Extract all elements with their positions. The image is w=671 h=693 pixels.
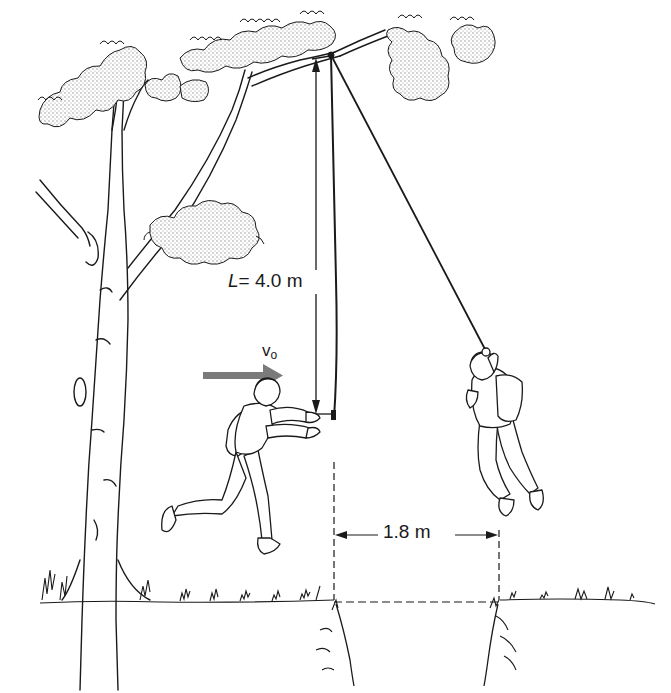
illustration (0, 0, 671, 693)
ropes (328, 52, 487, 420)
rope-hanging (331, 55, 337, 418)
rope-length-label: L= 4.0 m (227, 271, 303, 290)
horizontal-distance-label: 1.8 m (381, 522, 433, 541)
length-dimension-arrow (310, 56, 334, 414)
swinging-person (466, 348, 543, 516)
length-value: = 4.0 m (239, 270, 303, 291)
velocity-symbol: v (262, 341, 271, 360)
tree (36, 30, 388, 690)
initial-velocity-label: vo (262, 342, 277, 361)
ground (40, 570, 655, 686)
length-symbol: L (228, 270, 239, 291)
runner-person (162, 378, 320, 554)
velocity-subscript: o (271, 348, 278, 362)
physics-diagram: L= 4.0 m vo 1.8 m (0, 0, 671, 693)
foliage (39, 21, 495, 264)
